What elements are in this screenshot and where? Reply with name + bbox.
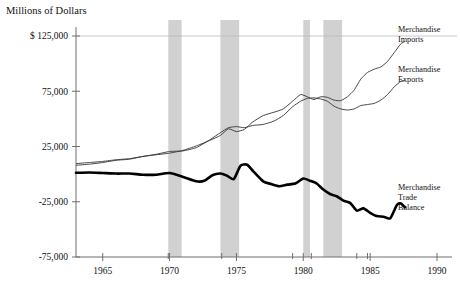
x-tick-label: 1975 xyxy=(227,266,246,276)
series-label-line: Merchandise xyxy=(398,183,441,192)
recession-band xyxy=(323,20,342,257)
x-tick-label: 1990 xyxy=(428,266,447,276)
y-axis-title: Millions of Dollars xyxy=(6,5,87,16)
x-tick-label: 1970 xyxy=(160,266,179,276)
series-label-line: Balance xyxy=(398,203,425,212)
y-tick-label: 25,000 xyxy=(42,142,68,152)
y-tick-label: 75,000 xyxy=(42,87,68,97)
trade-balance-line-chart: $ 125,00075,00025,000-25,000-75,000 1965… xyxy=(0,0,460,285)
series-label-line: Trade xyxy=(398,193,417,202)
x-tick-label: 1985 xyxy=(361,266,380,276)
series-label-line: Merchandise xyxy=(398,25,441,34)
series-label-line: Merchandise xyxy=(398,65,441,74)
recession-band xyxy=(220,20,239,257)
series-label-line: Exports xyxy=(398,75,423,84)
x-tick-label: 1980 xyxy=(294,266,313,276)
series-label-line: Imports xyxy=(398,35,423,44)
y-tick-label: -75,000 xyxy=(39,252,69,262)
y-tick-label: $ 125,000 xyxy=(30,31,68,41)
recession-band xyxy=(168,20,181,257)
x-tick-label: 1965 xyxy=(93,266,112,276)
chart-container: $ 125,00075,00025,000-25,000-75,000 1965… xyxy=(0,0,460,285)
recession-band xyxy=(303,20,310,257)
y-tick-label: -25,000 xyxy=(39,197,69,207)
